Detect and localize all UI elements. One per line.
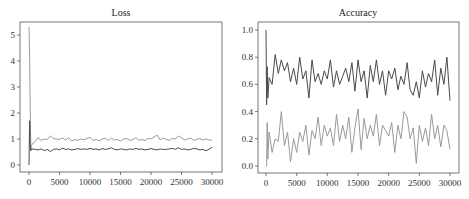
y-tick-label: 0.4 (242, 107, 254, 117)
loss-x-axis: 050001000015000200002500030000 (27, 172, 224, 187)
x-tick-label: 30000 (201, 177, 224, 187)
accuracy-chart-title: Accuracy (339, 7, 377, 18)
x-tick-label: 5000 (51, 177, 70, 187)
x-tick-label: 5000 (288, 178, 307, 188)
y-tick-label: 3 (11, 82, 16, 92)
y-tick-label: 4 (11, 56, 16, 66)
y-tick-label: 0.6 (242, 79, 254, 89)
series-line-acc_a (266, 30, 450, 105)
x-tick-label: 10000 (316, 178, 339, 188)
figure: Loss 050001000015000200002500030000 0123… (0, 0, 469, 199)
series-line-acc_b (266, 109, 450, 166)
accuracy-series-lines (266, 30, 450, 166)
x-tick-label: 25000 (170, 177, 193, 187)
y-tick-label: 0.0 (242, 161, 254, 171)
x-tick-label: 10000 (79, 177, 102, 187)
x-tick-label: 15000 (109, 177, 132, 187)
accuracy-chart: Accuracy 050001000015000200002500030000 … (242, 7, 462, 188)
x-tick-label: 0 (264, 178, 269, 188)
series-line-loss_a (29, 27, 212, 149)
x-tick-label: 20000 (140, 177, 163, 187)
y-tick-label: 1.0 (242, 25, 254, 35)
y-tick-label: 5 (11, 30, 16, 40)
accuracy-plot-frame (258, 22, 459, 173)
y-tick-label: 0.8 (242, 52, 254, 62)
accuracy-x-axis: 050001000015000200002500030000 (264, 173, 462, 188)
y-tick-label: 2 (11, 108, 16, 118)
x-tick-label: 15000 (347, 178, 370, 188)
y-tick-label: 0 (11, 160, 16, 170)
loss-chart-title: Loss (112, 7, 131, 18)
y-tick-label: 1 (11, 134, 16, 144)
accuracy-y-axis: 0.00.20.40.60.81.0 (242, 25, 258, 171)
series-line-loss_b (29, 121, 212, 165)
x-tick-label: 0 (27, 177, 32, 187)
loss-series-lines (29, 27, 212, 165)
y-tick-label: 0.2 (242, 134, 253, 144)
x-tick-label: 25000 (408, 178, 431, 188)
x-tick-label: 30000 (439, 178, 462, 188)
x-tick-label: 20000 (377, 178, 400, 188)
loss-y-axis: 012345 (11, 30, 21, 170)
loss-chart: Loss 050001000015000200002500030000 0123… (11, 7, 224, 187)
